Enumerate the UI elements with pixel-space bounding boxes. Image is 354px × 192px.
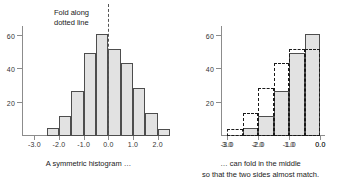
x-tick — [59, 136, 60, 140]
y-tick-label: 60 — [206, 33, 214, 40]
two-panel-histogram-figure: Fold along dotted line 204060 -3.0-2.0-1… — [0, 0, 354, 192]
right-y-axis — [221, 26, 222, 136]
x-tick — [227, 136, 228, 140]
x-tick-label: -2.0 — [53, 141, 66, 148]
y-tick — [17, 102, 22, 103]
x-tick — [34, 136, 35, 140]
fold-annotation-line1: Fold along — [54, 8, 89, 18]
histogram-bar — [59, 116, 71, 136]
y-tick-label: 20 — [7, 99, 15, 106]
x-tick — [258, 136, 259, 140]
histogram-bar — [108, 49, 120, 136]
histogram-bar — [84, 53, 96, 136]
x-tick — [133, 136, 134, 140]
right-caption-line2: so that the two sides almost match. — [167, 169, 354, 180]
y-tick — [17, 35, 22, 36]
x-tick — [320, 136, 321, 140]
histogram-bar — [145, 113, 157, 136]
x-tick-mirror-label: 3.0 — [222, 141, 232, 148]
histogram-bar — [47, 128, 59, 136]
histogram-bar-dashed — [289, 49, 305, 136]
fold-annotation: Fold along dotted line — [54, 8, 89, 28]
right-panel-caption: … can fold in the middle so that the two… — [167, 158, 354, 180]
y-tick — [17, 68, 22, 69]
histogram-bar-dashed — [305, 49, 321, 136]
y-tick — [216, 68, 221, 69]
x-tick-label: 0.0 — [103, 141, 113, 148]
x-tick — [158, 136, 159, 140]
y-tick-label: 60 — [7, 33, 15, 40]
histogram-bar — [158, 129, 170, 136]
right-plot-area: 204060 -3.03.0-2.02.0-1.01.00.00.0 — [221, 26, 325, 136]
histogram-bar-dashed — [274, 63, 290, 136]
left-plot-area: 204060 -3.0-2.0-1.00.01.02.0 — [22, 26, 170, 136]
x-tick-label: 1.0 — [128, 141, 138, 148]
y-tick-label: 20 — [206, 99, 214, 106]
x-tick — [108, 136, 109, 140]
y-tick-label: 40 — [206, 66, 214, 73]
y-tick — [216, 102, 221, 103]
histogram-bar-dashed — [243, 113, 259, 136]
fold-dashed-line — [108, 4, 109, 136]
left-y-axis — [22, 26, 23, 136]
histogram-bar — [133, 88, 145, 136]
x-tick-label: -1.0 — [77, 141, 90, 148]
x-tick-label: -3.0 — [28, 141, 41, 148]
histogram-bar — [71, 91, 83, 136]
left-panel-caption: A symmetric histogram … — [0, 158, 177, 169]
x-tick-label: 2.0 — [152, 141, 162, 148]
x-tick-mirror-label: 0.0 — [315, 141, 325, 148]
histogram-bar — [96, 34, 108, 136]
panel-folded-histogram: 204060 -3.03.0-2.02.0-1.01.00.00.0 … can… — [177, 0, 354, 192]
x-tick-mirror-label: 2.0 — [253, 141, 263, 148]
x-tick-mirror-label: 1.0 — [284, 141, 294, 148]
panel-symmetric-histogram: Fold along dotted line 204060 -3.0-2.0-1… — [0, 0, 177, 192]
histogram-bar-dashed — [227, 129, 243, 136]
right-caption-line1: … can fold in the middle — [167, 158, 354, 169]
x-tick — [289, 136, 290, 140]
histogram-bar-dashed — [258, 88, 274, 136]
y-tick — [216, 35, 221, 36]
y-tick-label: 40 — [7, 66, 15, 73]
x-tick — [84, 136, 85, 140]
histogram-bar — [121, 63, 133, 136]
